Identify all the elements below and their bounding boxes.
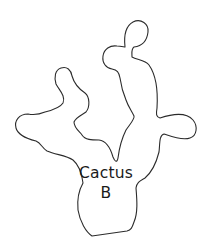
cactus-label-letter: B	[66, 184, 146, 202]
cactus-diagram	[0, 0, 206, 252]
cactus-outline	[16, 21, 197, 236]
cactus-label-name: Cactus	[66, 164, 146, 182]
